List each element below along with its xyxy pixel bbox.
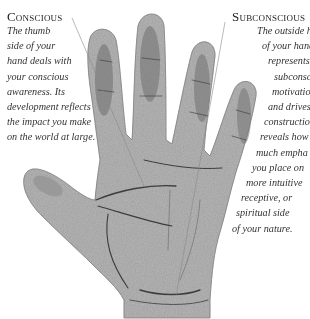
subconscious-line: reveals how bbox=[232, 129, 310, 144]
conscious-line: the impact you make bbox=[7, 114, 127, 129]
subconscious-line: and drives bbox=[232, 99, 310, 114]
subconscious-line: receptive, or bbox=[232, 190, 310, 205]
conscious-line: development reflects bbox=[7, 99, 127, 114]
subconscious-caption: Subconscious The outside hal of your han… bbox=[232, 10, 310, 236]
subconscious-line: represents y bbox=[232, 53, 310, 68]
subconscious-line: more intuitive bbox=[232, 175, 310, 190]
subconscious-line: spiritual side bbox=[232, 205, 310, 220]
subconscious-line: motivatio bbox=[232, 84, 310, 99]
conscious-line: side of your bbox=[7, 38, 127, 53]
subconscious-line: constructio bbox=[232, 114, 310, 129]
subconscious-line: much empha bbox=[232, 145, 310, 160]
conscious-line: your conscious bbox=[7, 69, 127, 84]
conscious-line: awareness. Its bbox=[7, 84, 127, 99]
conscious-caption: Conscious The thumb side of your hand de… bbox=[7, 10, 127, 145]
subconscious-line: subconsc bbox=[232, 69, 310, 84]
conscious-heading: Conscious bbox=[7, 10, 127, 23]
subconscious-line: of your hand bbox=[232, 38, 310, 53]
conscious-line: hand deals with bbox=[7, 53, 127, 68]
subconscious-line: you place on bbox=[232, 160, 310, 175]
subconscious-line: The outside hal bbox=[232, 23, 310, 38]
conscious-line: The thumb bbox=[7, 23, 127, 38]
palmistry-page: Conscious The thumb side of your hand de… bbox=[0, 0, 310, 319]
subconscious-line: of your nature. bbox=[232, 221, 310, 236]
subconscious-heading: Subconscious bbox=[232, 10, 310, 23]
conscious-line: on the world at large. bbox=[7, 129, 127, 144]
